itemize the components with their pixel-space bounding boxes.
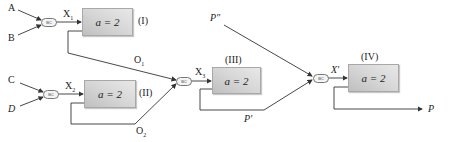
input-label-p-double-prime: P″	[210, 13, 220, 23]
signal-label-o2: O2	[136, 126, 146, 138]
signal-o1-sub: 1	[141, 61, 144, 67]
signal-x1-sub: 1	[70, 15, 73, 21]
signal-label-x-prime: X′	[331, 65, 339, 75]
signal-label-p: P	[428, 104, 434, 114]
block-ii: a = 2	[84, 80, 136, 108]
block-param: a = 2	[362, 72, 386, 84]
combiner-node-4: BC	[313, 74, 329, 83]
block-label-ii: (II)	[139, 88, 152, 98]
signal-label-o1: O1	[134, 55, 144, 67]
input-label-c: C	[8, 75, 15, 85]
signal-label-x2: X2	[65, 81, 75, 93]
combiner-label: BC	[318, 76, 324, 81]
block-i: a = 2	[82, 8, 133, 36]
block-param: a = 2	[96, 16, 120, 28]
block-label-iv: (IV)	[361, 52, 378, 62]
combiner-label: BC	[46, 20, 52, 25]
block-param: a = 2	[225, 75, 249, 87]
combiner-node-2: BC	[43, 90, 59, 99]
block-label-i: (I)	[138, 16, 148, 26]
signal-label-p-prime: P′	[244, 114, 252, 124]
signal-o2-sub: 2	[143, 132, 146, 138]
signal-x3-sub: 3	[202, 73, 205, 79]
block-label-iii: (III)	[225, 55, 242, 65]
input-label-a: A	[8, 3, 15, 13]
combiner-label: BC	[181, 79, 187, 84]
input-label-d: D	[8, 104, 15, 114]
signal-label-x1: X1	[63, 9, 73, 21]
block-iv: a = 2	[348, 64, 399, 92]
combiner-label: BC	[48, 92, 54, 97]
signal-x2-sub: 2	[72, 87, 75, 93]
combiner-node-3: BC	[176, 77, 192, 86]
block-param: a = 2	[98, 88, 122, 100]
combiner-node-1: BC	[41, 18, 57, 27]
input-label-b: B	[8, 33, 15, 43]
signal-label-x3: X3	[195, 67, 205, 79]
block-iii: a = 2	[212, 67, 261, 94]
